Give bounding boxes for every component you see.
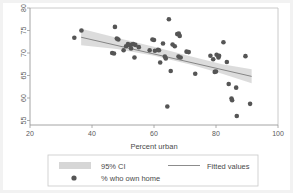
data-point: [193, 71, 198, 76]
data-point: [121, 48, 126, 53]
y-axis-tick-label: 55: [20, 117, 27, 125]
y-axis: 556065707580: [20, 4, 30, 125]
data-point: [165, 104, 170, 109]
legend-band-swatch: [59, 162, 91, 169]
data-point: [214, 69, 219, 74]
data-point: [248, 102, 253, 107]
legend-dot-swatch: [71, 175, 76, 180]
data-point: [113, 25, 118, 30]
data-point: [234, 85, 239, 90]
data-point: [129, 46, 134, 51]
x-axis: 20406080100: [26, 125, 284, 137]
plot-background: [30, 8, 278, 125]
legend-label-own-home: % who own home: [101, 174, 160, 183]
data-point: [177, 34, 182, 39]
data-point: [72, 35, 77, 40]
x-axis-tick-label: 20: [26, 130, 34, 137]
y-axis-tick-label: 80: [20, 4, 27, 12]
data-point: [243, 54, 248, 59]
data-point: [230, 98, 235, 103]
data-point: [172, 44, 177, 49]
data-point: [163, 56, 168, 61]
legend-label-fitted: Fitted values: [207, 162, 250, 171]
data-point: [186, 50, 191, 55]
figure-canvas: 556065707580 20406080100 Percent urban 9…: [3, 3, 290, 190]
scatter-chart: 556065707580 20406080100 Percent urban 9…: [3, 3, 290, 190]
data-point: [147, 48, 152, 53]
x-axis-tick-label: 40: [88, 130, 96, 137]
data-point: [178, 55, 183, 60]
y-axis-tick-label: 65: [20, 72, 27, 80]
data-point: [226, 82, 231, 87]
plot-area: [30, 8, 278, 125]
data-point: [208, 53, 213, 58]
x-axis-tick-label: 100: [272, 130, 284, 137]
data-point: [116, 37, 121, 42]
y-axis-tick-label: 70: [20, 49, 27, 57]
y-axis-tick-label: 75: [20, 27, 27, 35]
data-point: [221, 40, 226, 45]
x-axis-tick-label: 60: [150, 130, 158, 137]
chart-legend: 95% CI Fitted values % who own home: [48, 155, 258, 186]
x-axis-title: Percent urban: [130, 142, 177, 151]
data-point: [112, 51, 117, 56]
data-point: [157, 48, 162, 53]
data-point: [217, 53, 222, 58]
data-point: [225, 60, 230, 65]
data-point: [137, 45, 142, 50]
data-point: [79, 28, 84, 33]
data-point: [234, 114, 239, 119]
legend-label-ci: 95% CI: [101, 162, 126, 171]
data-point: [132, 55, 137, 60]
data-point: [167, 17, 172, 22]
data-point: [161, 41, 166, 46]
data-point: [211, 57, 216, 62]
x-axis-tick-label: 80: [212, 130, 220, 137]
data-point: [168, 69, 173, 74]
data-point: [152, 38, 157, 43]
figure-container: 556065707580 20406080100 Percent urban 9…: [0, 0, 293, 193]
y-axis-tick-label: 60: [20, 94, 27, 102]
data-point: [158, 60, 163, 65]
